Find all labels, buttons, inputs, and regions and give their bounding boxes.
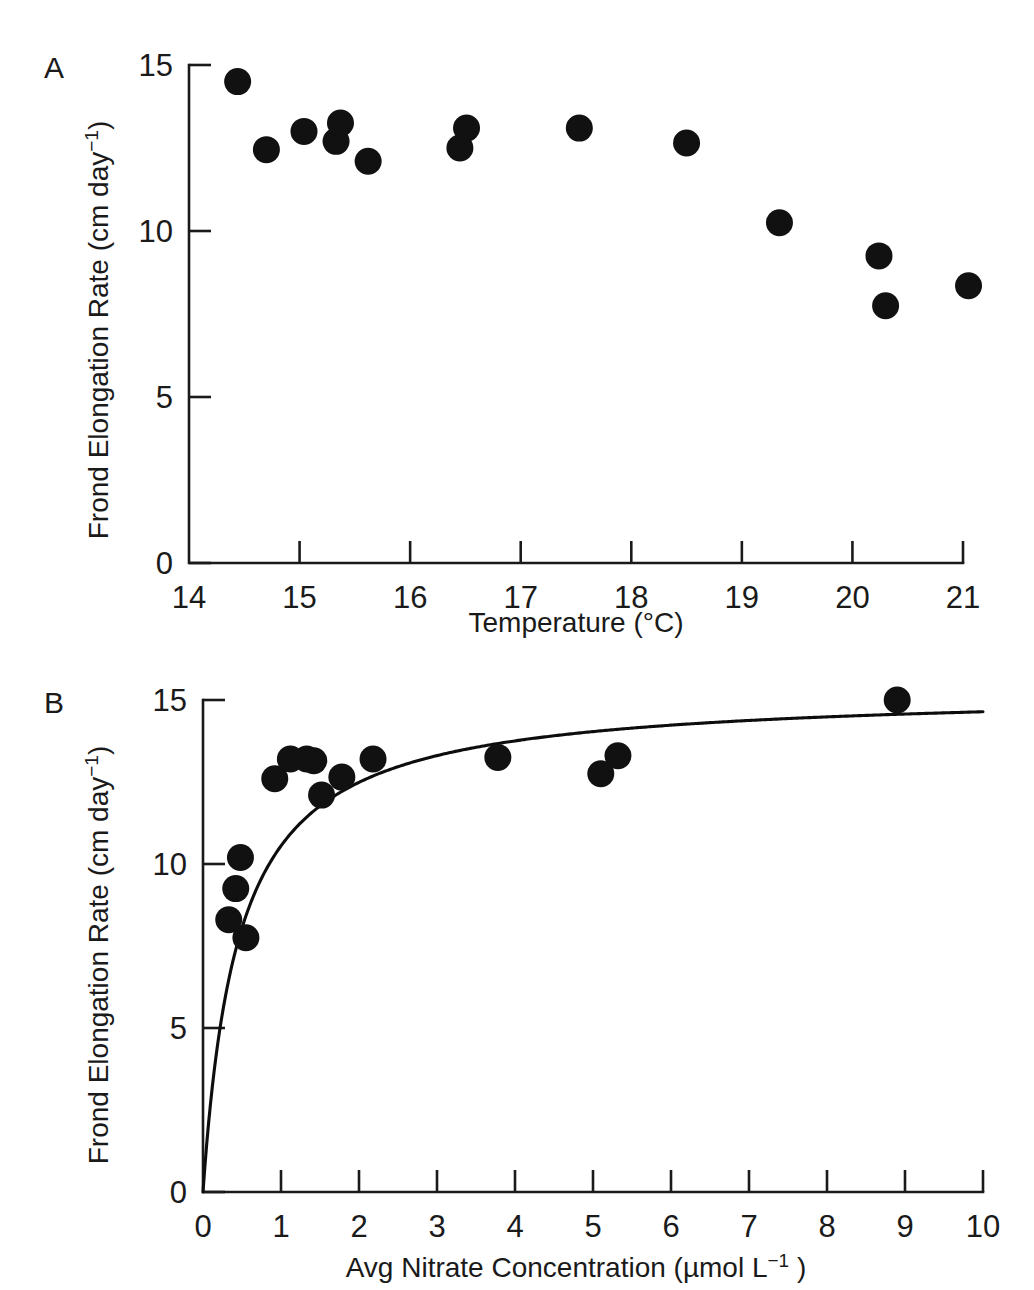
y-tick-label: 5 bbox=[156, 380, 173, 415]
panel-b-plot: B Frond Elongation Rate (cm day−1) Avg N… bbox=[0, 655, 1034, 1290]
x-tick-label: 9 bbox=[896, 1209, 913, 1244]
figure-container: A Frond Elongation Rate (cm day−1) Tempe… bbox=[0, 0, 1034, 1290]
data-point bbox=[360, 746, 387, 773]
y-tick-label: 15 bbox=[139, 48, 173, 83]
data-point bbox=[253, 136, 280, 163]
data-point bbox=[327, 110, 354, 137]
data-point bbox=[453, 115, 480, 142]
panel-a-y-axis-title-main: Frond Elongation Rate (cm day bbox=[83, 152, 114, 540]
x-tick-label: 8 bbox=[818, 1209, 835, 1244]
data-point bbox=[328, 764, 355, 791]
data-point bbox=[232, 924, 259, 951]
data-point bbox=[300, 747, 327, 774]
panel-a: A Frond Elongation Rate (cm day−1) Tempe… bbox=[0, 0, 1034, 660]
data-point bbox=[308, 782, 335, 809]
y-tick-label: 15 bbox=[153, 683, 187, 718]
x-tick-label: 21 bbox=[946, 580, 980, 615]
data-point bbox=[566, 115, 593, 142]
x-tick-label: 20 bbox=[835, 580, 869, 615]
data-point bbox=[224, 68, 251, 95]
x-tick-label: 14 bbox=[172, 580, 206, 615]
panel-b-x-axis-title-tail: ) bbox=[789, 1252, 806, 1283]
x-tick-label: 17 bbox=[503, 580, 537, 615]
data-point bbox=[673, 130, 700, 157]
data-point bbox=[290, 118, 317, 145]
x-tick-label: 0 bbox=[194, 1209, 211, 1244]
data-point bbox=[604, 742, 631, 769]
x-tick-label: 3 bbox=[428, 1209, 445, 1244]
y-tick-label: 5 bbox=[170, 1011, 187, 1046]
panel-a-y-axis-title-tail: ) bbox=[83, 121, 114, 130]
panel-b: B Frond Elongation Rate (cm day−1) Avg N… bbox=[0, 655, 1034, 1290]
panel-a-y-axis-title-superscript: −1 bbox=[81, 130, 102, 152]
x-tick-label: 5 bbox=[584, 1209, 601, 1244]
x-tick-label: 10 bbox=[966, 1209, 1000, 1244]
x-tick-label: 19 bbox=[725, 580, 759, 615]
panel-b-letter: B bbox=[44, 686, 64, 719]
x-tick-label: 7 bbox=[740, 1209, 757, 1244]
panel-b-data-points bbox=[215, 687, 910, 952]
panel-a-tick-labels: 0510151415161718192021 bbox=[139, 48, 981, 615]
panel-a-letter: A bbox=[44, 51, 64, 84]
panel-b-x-axis-title-superscript: −1 bbox=[768, 1250, 790, 1271]
data-point bbox=[222, 875, 249, 902]
data-point bbox=[355, 148, 382, 175]
panel-a-plot: A Frond Elongation Rate (cm day−1) Tempe… bbox=[0, 0, 1034, 660]
panel-b-y-axis-title-main: Frond Elongation Rate (cm day bbox=[83, 777, 114, 1165]
y-tick-label: 10 bbox=[139, 214, 173, 249]
panel-b-y-axis-title-tail: ) bbox=[83, 746, 114, 755]
data-point bbox=[955, 272, 982, 299]
panel-b-y-axis-title: Frond Elongation Rate (cm day−1) bbox=[81, 746, 114, 1165]
panel-b-x-axis-title: Avg Nitrate Concentration (µmol L−1 ) bbox=[346, 1250, 807, 1283]
data-point bbox=[872, 292, 899, 319]
data-point bbox=[865, 242, 892, 269]
y-tick-label: 10 bbox=[153, 847, 187, 882]
x-tick-label: 15 bbox=[282, 580, 316, 615]
x-tick-label: 16 bbox=[393, 580, 427, 615]
y-tick-label: 0 bbox=[156, 546, 173, 581]
panel-b-y-axis-title-superscript: −1 bbox=[81, 755, 102, 777]
x-tick-label: 4 bbox=[506, 1209, 523, 1244]
data-point bbox=[227, 844, 254, 871]
data-point bbox=[884, 687, 911, 714]
y-tick-label: 0 bbox=[170, 1175, 187, 1210]
x-tick-label: 18 bbox=[614, 580, 648, 615]
x-tick-label: 6 bbox=[662, 1209, 679, 1244]
x-tick-label: 1 bbox=[272, 1209, 289, 1244]
panel-b-x-axis-title-main: Avg Nitrate Concentration (µmol L bbox=[346, 1252, 768, 1283]
panel-a-data-points bbox=[224, 68, 982, 319]
data-point bbox=[484, 744, 511, 771]
data-point bbox=[766, 209, 793, 236]
x-tick-label: 2 bbox=[350, 1209, 367, 1244]
panel-a-x-axis-title: Temperature (°C) bbox=[468, 607, 683, 638]
panel-a-y-axis-title: Frond Elongation Rate (cm day−1) bbox=[81, 121, 114, 540]
